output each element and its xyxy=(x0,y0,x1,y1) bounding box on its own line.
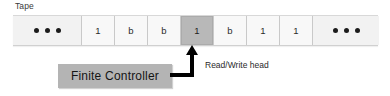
tape-cell-symbol: b xyxy=(227,25,232,36)
read-write-head-label: Read/Write head xyxy=(205,60,269,70)
tape-cell[interactable]: b xyxy=(148,16,181,45)
ellipsis-icon xyxy=(34,28,61,33)
tape-strip: 1 b b 1 b 1 1 xyxy=(13,15,378,46)
tape-cell-symbol: 1 xyxy=(194,25,199,36)
tape-cell-right-ellipsis xyxy=(313,16,379,45)
tape-cell[interactable]: 1 xyxy=(280,16,313,45)
arrow-up-icon xyxy=(186,45,198,55)
tape-cell-symbol: 1 xyxy=(260,25,265,36)
tape-cell[interactable]: b xyxy=(115,16,148,45)
tape-label: Tape xyxy=(15,1,34,11)
ellipsis-icon xyxy=(333,28,360,33)
tape-cell-symbol: b xyxy=(128,25,133,36)
tape-cell-left-ellipsis xyxy=(13,16,82,45)
tape-cell-symbol: b xyxy=(161,25,166,36)
connector-vertical-segment xyxy=(190,54,194,77)
finite-controller-box[interactable]: Finite Controller xyxy=(58,64,172,88)
tape-cell[interactable]: 1 xyxy=(82,16,115,45)
turing-machine-diagram: Tape 1 b b 1 b 1 1 Finite Co xyxy=(0,0,390,96)
tape-cell[interactable]: b xyxy=(214,16,247,45)
tape-cell-head-position[interactable]: 1 xyxy=(181,16,214,45)
tape-cell-symbol: 1 xyxy=(293,25,298,36)
tape-cell[interactable]: 1 xyxy=(247,16,280,45)
finite-controller-label: Finite Controller xyxy=(71,69,159,83)
tape-cell-symbol: 1 xyxy=(95,25,100,36)
